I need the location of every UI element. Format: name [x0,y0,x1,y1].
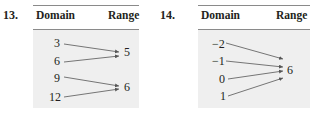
arrow-icon [228,78,283,96]
arrow-icon [226,43,283,59]
arrow-icon [228,71,283,79]
arrow-icon [226,61,283,67]
arrow-icon [64,56,119,62]
arrow-icon [64,89,119,97]
arrow-icon [64,44,119,52]
arrow-icon [64,77,119,86]
mapping-arrows [0,0,314,116]
